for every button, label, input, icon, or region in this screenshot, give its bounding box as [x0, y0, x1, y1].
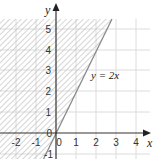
- x-tick-label: 1: [73, 137, 79, 148]
- y-tick-label: 2: [45, 86, 51, 97]
- x-tick-label: 4: [133, 137, 139, 148]
- x-tick-label: -1: [32, 137, 41, 148]
- y-axis-label: y: [44, 3, 51, 17]
- y-tick-label: 1: [45, 107, 51, 118]
- y-axis-arrow-icon: [53, 3, 60, 11]
- x-tick-label: 3: [113, 137, 119, 148]
- equation-label: y = 2x: [90, 69, 119, 81]
- x-tick-label: 2: [93, 137, 99, 148]
- x-axis-label: x: [146, 136, 153, 150]
- y-tick-label: 5: [45, 24, 51, 35]
- graph-canvas: -2 -1 0 1 2 3 4 5 4 3 2 1 0 -1 y x y = 2…: [0, 0, 158, 159]
- x-origin-label: 0: [56, 137, 62, 148]
- y-origin-label: 0: [46, 128, 52, 139]
- x-tick-label: -2: [12, 137, 21, 148]
- y-tick-label: 3: [45, 65, 51, 76]
- y-tick-label: 4: [45, 45, 51, 56]
- y-tick-label: -1: [44, 149, 53, 159]
- x-tick-labels: -2 -1 0 1 2 3 4: [12, 137, 140, 148]
